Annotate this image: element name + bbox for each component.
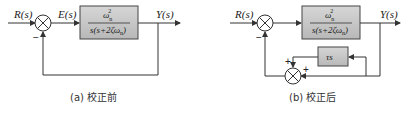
inner-sign-right: + [303,64,309,75]
summing-junction-icon [257,15,273,31]
error-label: E(s) [57,8,77,21]
input-label: R(s) [13,8,33,21]
input-label: R(s) [234,8,254,21]
caption-b: (b) 校正后 [289,91,336,103]
diagram-a: R(s) − E(s) ωn2 s(s+2ζωn) Y(s) (a) 校正前 [8,6,180,103]
feedback-sign: − [256,32,262,43]
inner-summing-junction-icon [285,68,301,84]
feedback-sign: − [33,32,39,43]
output-to-compensator [349,57,366,76]
block-diagrams: R(s) − E(s) ωn2 s(s+2ζωn) Y(s) (a) 校正前 R… [0,0,408,114]
caption-a: (a) 校正前 [70,91,117,103]
compensator-label: τs [326,52,333,62]
feedback-path [265,32,285,76]
output-label: Y(s) [156,8,174,21]
diagram-b: R(s) − ωn2 s(s+2ζωn) Y(s) τs + + (b) [230,6,400,103]
inner-sign-top: + [285,56,291,67]
summing-junction-icon [35,15,51,31]
compensator-block [318,47,348,66]
output-label: Y(s) [380,8,398,21]
